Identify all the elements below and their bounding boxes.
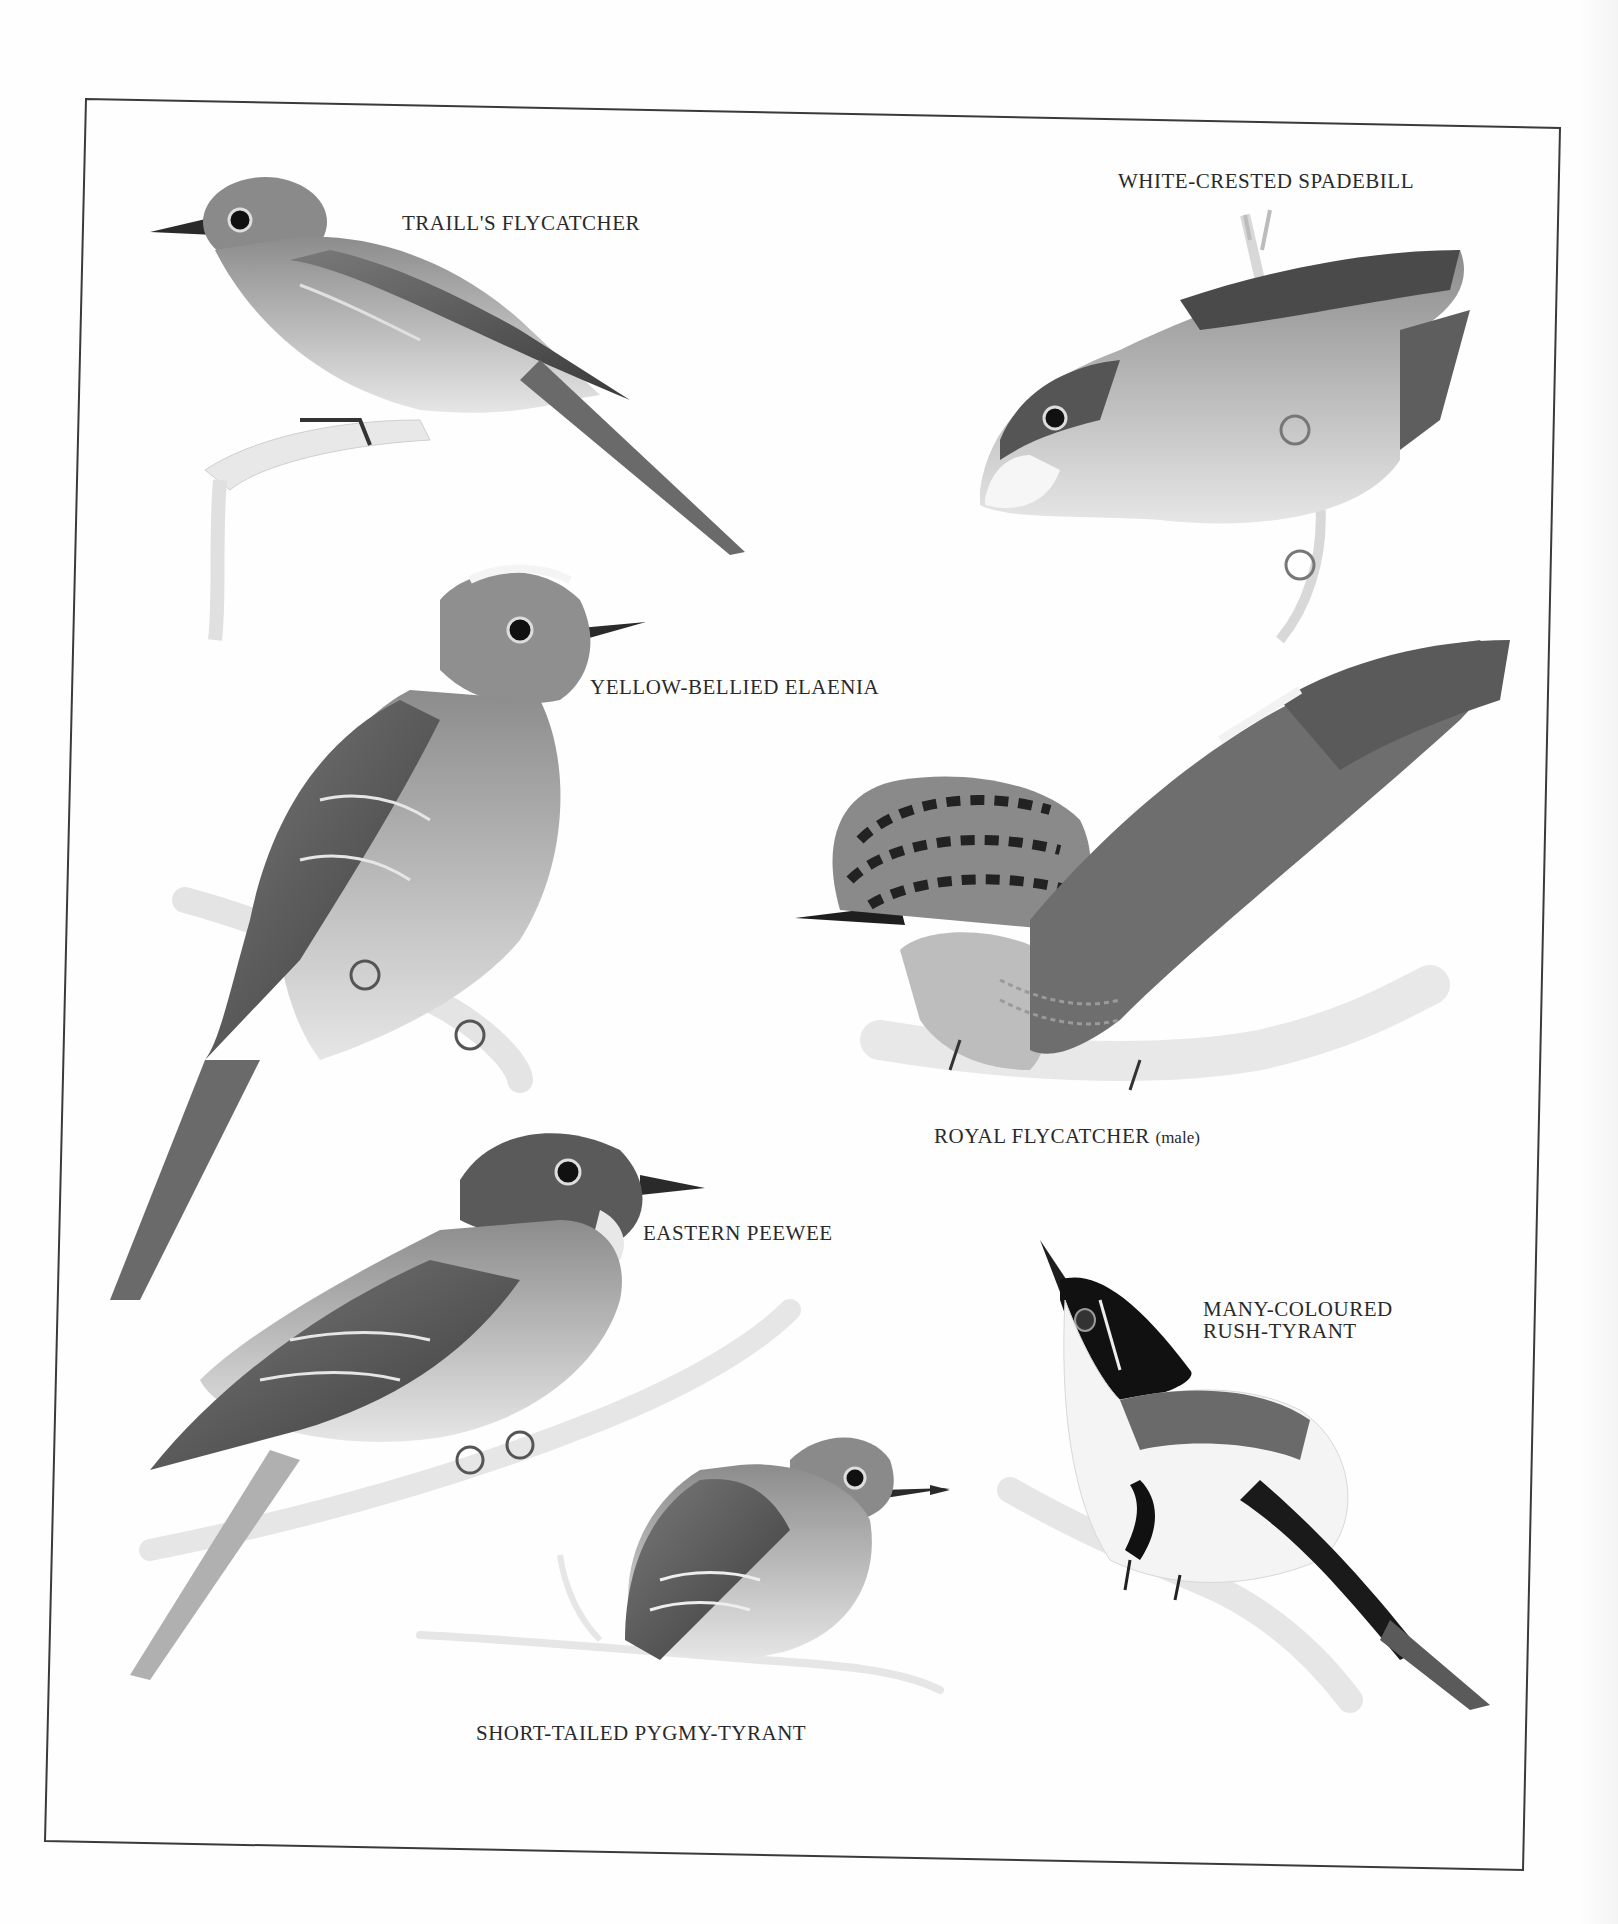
many-coloured-line-2: RUSH-TYRANT: [1203, 1320, 1393, 1342]
bird-royal-flycatcher: [795, 640, 1510, 1090]
many-coloured-line-1: MANY-COLOURED: [1203, 1298, 1393, 1320]
royal-flycatcher-name: ROYAL FLYCATCHER: [934, 1124, 1150, 1148]
label-white-crested-spadebill: WHITE-CRESTED SPADEBILL: [1118, 170, 1414, 192]
illustration-plate: TRAILL'S FLYCATCHER WHITE-CRESTED SPADEB…: [0, 0, 1618, 1924]
bird-white-crested-spadebill: [980, 210, 1470, 640]
label-royal-flycatcher: ROYAL FLYCATCHER (male): [934, 1125, 1200, 1149]
label-yellow-bellied-elaenia: YELLOW-BELLIED ELAENIA: [590, 676, 879, 698]
label-short-tailed-pygmy-tyrant: SHORT-TAILED PYGMY-TYRANT: [476, 1722, 806, 1744]
bird-traills-flycatcher: [150, 177, 745, 640]
bird-short-tailed-pygmy-tyrant: [420, 1438, 950, 1691]
royal-flycatcher-sex-note: (male): [1155, 1128, 1199, 1147]
label-eastern-peewee: EASTERN PEEWEE: [643, 1222, 833, 1244]
label-many-coloured-rush-tyrant: MANY-COLOURED RUSH-TYRANT: [1203, 1298, 1393, 1342]
label-traills-flycatcher: TRAILL'S FLYCATCHER: [402, 212, 640, 234]
bird-illustrations: [0, 0, 1618, 1924]
